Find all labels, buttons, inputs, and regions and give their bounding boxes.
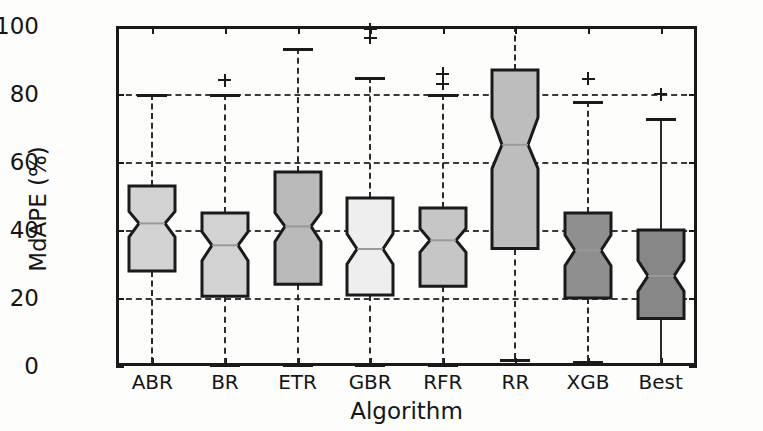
y-tick-label-100: 100 <box>0 15 39 38</box>
y-tick-mark-0-right <box>689 366 697 368</box>
chart-page: MdAPE (%) Algorithm 020406080100 ABRBRET… <box>0 0 763 431</box>
y-tick-label-80: 80 <box>0 83 39 106</box>
y-tick-label-60: 60 <box>0 151 39 174</box>
y-tick-mark-0-left <box>116 366 124 368</box>
y-tick-label-0: 0 <box>0 355 39 378</box>
y-tick-label-20: 20 <box>0 287 39 310</box>
y-tick-label-40: 40 <box>0 219 39 242</box>
plot-frame <box>116 26 697 366</box>
x-axis-title: Algorithm <box>116 398 697 424</box>
x-tick-label-best[interactable]: Best <box>606 372 716 392</box>
